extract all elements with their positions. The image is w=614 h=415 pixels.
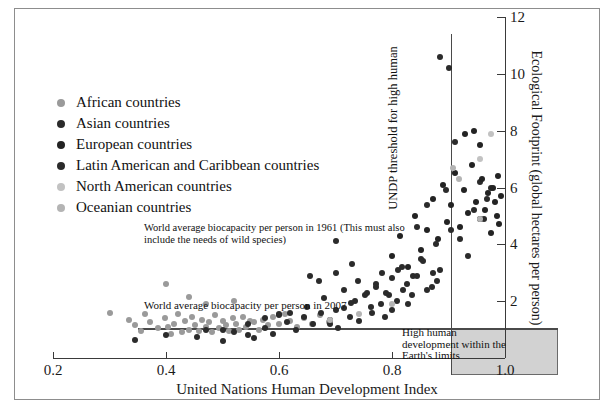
scatter-point xyxy=(433,241,439,247)
biocapacity-2007-annotation: World average biocapacity per person in … xyxy=(144,300,414,312)
legend-item: Asian countries xyxy=(57,113,319,134)
scatter-point xyxy=(488,131,494,137)
scatter-point xyxy=(186,327,192,333)
legend-item-label: Oceanian countries xyxy=(76,199,191,216)
scatter-point xyxy=(424,287,430,293)
scatter-point xyxy=(477,216,483,222)
scatter-point xyxy=(171,321,177,327)
scatter-point xyxy=(434,278,440,284)
scatter-point xyxy=(400,287,406,293)
y-tick-mark xyxy=(497,17,506,18)
y-tick-label: 2 xyxy=(510,293,518,310)
scatter-point xyxy=(404,281,410,287)
y-tick-label: 4 xyxy=(510,236,518,253)
legend-item: European countries xyxy=(57,134,319,155)
scatter-point xyxy=(126,317,132,323)
scatter-point xyxy=(251,335,257,341)
y-tick-label: 6 xyxy=(510,179,518,196)
scatter-point xyxy=(379,270,385,276)
scatter-point xyxy=(107,310,113,316)
x-tick-label: 0.4 xyxy=(157,362,176,379)
y-axis-label: Ecological Footprint (global hectares pe… xyxy=(528,51,544,326)
scatter-point xyxy=(301,314,307,320)
scatter-point xyxy=(162,315,168,321)
ecological-footprint-scatter-figure: 0.20.40.60.81.0 24681012 United Nations … xyxy=(0,0,614,415)
x-tick-label: 0.8 xyxy=(383,362,402,379)
legend-marker-icon xyxy=(57,99,65,107)
scatter-point xyxy=(245,321,251,327)
scatter-point xyxy=(430,196,436,202)
scatter-point xyxy=(482,207,488,213)
scatter-point xyxy=(362,292,368,298)
scatter-point xyxy=(163,332,169,338)
y-tick-mark xyxy=(497,74,506,75)
scatter-point xyxy=(347,314,353,320)
scatter-point xyxy=(412,213,418,219)
scatter-point xyxy=(471,128,477,134)
legend-item-label: North American countries xyxy=(76,178,232,195)
scatter-point xyxy=(382,314,388,320)
legend-marker-icon xyxy=(57,162,65,170)
scatter-point xyxy=(307,273,313,279)
scatter-point xyxy=(409,292,415,298)
scatter-point xyxy=(435,236,441,242)
scatter-point xyxy=(443,187,449,193)
scatter-point xyxy=(132,322,138,328)
scatter-point xyxy=(418,247,424,253)
legend-marker-icon xyxy=(57,204,65,212)
y-tick-mark xyxy=(497,301,506,302)
scatter-point xyxy=(399,264,405,270)
scatter-point xyxy=(496,221,502,227)
scatter-point xyxy=(256,327,262,333)
scatter-point xyxy=(293,327,299,333)
scatter-point xyxy=(175,311,181,317)
scatter-point xyxy=(251,319,257,325)
x-tick-mark xyxy=(53,352,54,358)
scatter-point xyxy=(163,281,169,287)
y-tick-label: 10 xyxy=(510,65,525,82)
scatter-point xyxy=(333,270,339,276)
scatter-point xyxy=(430,270,436,276)
scatter-point xyxy=(316,278,322,284)
x-tick-label: 0.6 xyxy=(270,362,289,379)
scatter-point xyxy=(335,325,341,331)
scatter-point xyxy=(473,199,479,205)
scatter-point xyxy=(206,319,212,325)
legend-item: Latin American and Caribbean countries xyxy=(57,155,319,176)
scatter-point xyxy=(477,142,483,148)
scatter-point xyxy=(450,165,456,171)
legend-item-label: African countries xyxy=(76,94,181,111)
scatter-point xyxy=(142,311,148,317)
scatter-point xyxy=(414,273,420,279)
y-tick-label: 8 xyxy=(510,122,518,139)
scatter-point xyxy=(262,315,268,321)
scatter-point xyxy=(327,317,333,323)
scatter-point xyxy=(456,176,462,182)
scatter-point xyxy=(270,331,276,337)
scatter-point xyxy=(389,275,395,281)
scatter-point xyxy=(276,311,282,317)
scatter-point xyxy=(457,224,463,230)
y-tick-label: 12 xyxy=(510,9,525,26)
scatter-point xyxy=(495,173,501,179)
scatter-point xyxy=(220,327,226,333)
scatter-point xyxy=(276,321,282,327)
scatter-point xyxy=(284,319,290,325)
x-tick-mark xyxy=(392,352,393,358)
chart-legend: African countriesAsian countriesEuropean… xyxy=(57,92,319,218)
scatter-point xyxy=(355,278,361,284)
x-tick-label: 0.2 xyxy=(44,362,63,379)
x-tick-label: 1.0 xyxy=(496,362,515,379)
legend-marker-icon xyxy=(57,183,65,191)
scatter-point xyxy=(373,284,379,290)
scatter-point xyxy=(189,314,195,320)
scatter-point xyxy=(165,324,171,330)
high-human-development-annotation: High human development within the Earth'… xyxy=(402,327,514,362)
scatter-point xyxy=(310,321,316,327)
legend-marker-icon xyxy=(57,120,65,128)
scatter-point xyxy=(479,176,485,182)
scatter-point xyxy=(414,224,420,230)
x-tick-mark xyxy=(166,352,167,358)
scatter-point xyxy=(448,202,454,208)
scatter-point xyxy=(485,190,491,196)
